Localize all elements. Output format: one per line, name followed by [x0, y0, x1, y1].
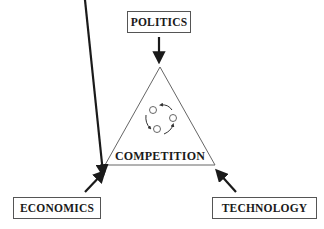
- technology-node: TECHNOLOGY: [212, 197, 317, 219]
- arrow-technology-to-competition: [218, 172, 236, 192]
- politics-node: POLITICS: [127, 11, 191, 33]
- arrow-economics-line: [85, 173, 103, 192]
- arrow-economics-to-competition: [85, 0, 103, 173]
- diagram-canvas: [0, 0, 324, 229]
- economics-node: ECONOMICS: [13, 197, 101, 219]
- competition-label: COMPETITION: [112, 149, 208, 164]
- cycle-icon: [146, 105, 177, 134]
